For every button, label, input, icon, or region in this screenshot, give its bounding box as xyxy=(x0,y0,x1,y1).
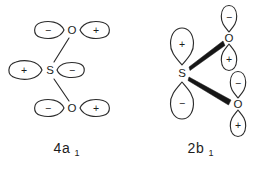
lobe-o-top-plus: + xyxy=(80,22,109,39)
atom-label-o-top: O xyxy=(225,32,234,44)
atom-label-o-bottom: O xyxy=(234,98,243,110)
mo-figure: − O + + S − − xyxy=(0,0,258,170)
lobe-s-down-minus: − xyxy=(170,82,193,119)
diagram-4a1: − O + + S − − xyxy=(9,22,110,117)
atom-label-s-center: S xyxy=(46,64,54,76)
caption-group: 4a 1 2b 1 xyxy=(54,140,214,158)
lobe-sign: + xyxy=(93,102,99,114)
caption-2b1: 2b 1 xyxy=(188,140,214,158)
lobe-o-top-up-minus: − xyxy=(221,6,236,33)
mo-diagram-canvas: − O + + S − − xyxy=(0,0,258,170)
caption-4a1-subscript: 1 xyxy=(74,148,79,158)
lobe-o-bottom-minus: − xyxy=(35,100,64,117)
lobe-o-bottom-up-minus: − xyxy=(230,72,245,99)
lobe-sign: + xyxy=(226,53,232,65)
lobe-s-left-plus: + xyxy=(9,61,42,80)
lobe-sign: − xyxy=(45,24,51,36)
lobe-o-bottom-down-plus: + xyxy=(230,110,245,137)
lobe-sign: + xyxy=(21,64,27,76)
lobe-sign: + xyxy=(93,24,99,36)
lobe-sign: − xyxy=(235,77,241,89)
bond-s-to-o-top xyxy=(54,38,69,62)
caption-2b1-subscript: 1 xyxy=(208,148,213,158)
lobe-o-top-minus: − xyxy=(35,22,64,39)
lobe-s-right-minus: − xyxy=(57,63,84,78)
lobe-sign: + xyxy=(235,119,241,131)
atom-label-o-bottom: O xyxy=(68,102,77,114)
lobe-s-up-plus: + xyxy=(170,28,193,65)
caption-4a1: 4a 1 xyxy=(54,140,80,158)
lobe-sign: − xyxy=(45,102,51,114)
lobe-sign: − xyxy=(179,97,185,109)
lobe-sign: − xyxy=(226,11,232,23)
lobe-sign: + xyxy=(179,38,185,50)
bond-s-to-o-top xyxy=(189,41,225,71)
atom-label-s-center: S xyxy=(178,67,186,79)
bond-s-to-o-bottom xyxy=(54,79,69,101)
atom-label-o-top: O xyxy=(68,24,77,36)
lobe-o-bottom-plus: + xyxy=(80,100,109,117)
lobe-o-top-down-plus: + xyxy=(221,44,236,71)
lobe-sign: − xyxy=(69,64,75,76)
caption-4a1-main: 4a xyxy=(54,140,71,156)
diagram-2b1: + S − − O + − xyxy=(170,6,245,137)
caption-2b1-main: 2b xyxy=(188,140,205,156)
bond-s-to-o-bottom xyxy=(188,77,231,105)
